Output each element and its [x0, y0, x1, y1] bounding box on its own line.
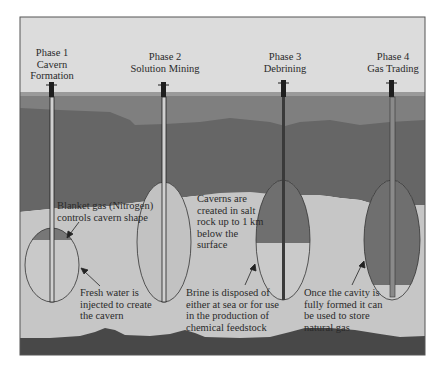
phase-2-title: Phase 2 Solution Mining — [120, 51, 210, 74]
fresh-water-note: Fresh water is injected to create the ca… — [80, 287, 152, 322]
phase-1-subtitle-line2: Formation — [22, 70, 82, 82]
phase-3-label: Phase 3 — [250, 51, 320, 63]
phase-1-title: Phase 1 Cavern Formation — [22, 47, 82, 82]
phase-4-title: Phase 4 Gas Trading — [355, 51, 431, 74]
blanket-gas-note: Blanket gas (Nitrogen) controls cavern s… — [57, 200, 153, 223]
phase-2-subtitle: Solution Mining — [120, 63, 210, 75]
phase-4-subtitle: Gas Trading — [355, 63, 431, 75]
phase-3-subtitle: Debrining — [250, 63, 320, 75]
phase-3-title: Phase 3 Debrining — [250, 51, 320, 74]
phase-1-label: Phase 1 — [22, 47, 82, 59]
caverns-created-note: Caverns are created in salt rock up to 1… — [197, 193, 264, 251]
phase-2-label: Phase 2 — [120, 51, 210, 63]
phase-1-subtitle-line1: Cavern — [22, 59, 82, 71]
gas-storage-note: Once the cavity is fully formed it can b… — [304, 287, 382, 333]
brine-disposal-note: Brine is disposed of either at sea or fo… — [186, 287, 279, 333]
phase-4-label: Phase 4 — [355, 51, 431, 63]
ground-surface-line — [20, 92, 425, 96]
